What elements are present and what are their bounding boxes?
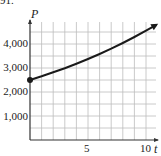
y-tick-label-2000: 2,000 — [0, 86, 28, 97]
y-tick-label-3000: 3,000 — [0, 62, 28, 73]
chart-plot-area — [0, 0, 161, 156]
y-tick-label-1000: 1,000 — [0, 111, 28, 122]
x-tick-label-5: 5 — [84, 143, 90, 154]
x-axis-label: t — [154, 143, 157, 155]
data-curve — [30, 25, 156, 80]
y-tick-label-4000: 4,000 — [0, 38, 28, 49]
grid-lines — [30, 22, 156, 140]
x-tick-label-10: 10 — [140, 143, 151, 154]
y-axis-label: P — [31, 8, 38, 20]
start-point-marker — [27, 77, 33, 83]
axes — [28, 19, 159, 142]
